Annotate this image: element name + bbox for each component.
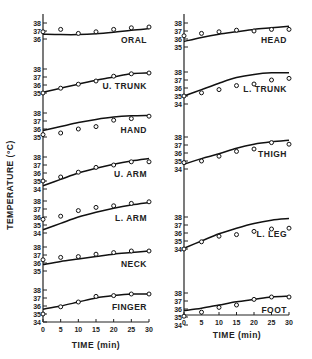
- y-tick-label: 37: [174, 222, 182, 229]
- data-point: [129, 26, 133, 30]
- y-tick-label: 36: [33, 303, 41, 310]
- y-tick-label: 35: [33, 268, 41, 275]
- y-tick-label: 37: [174, 28, 182, 35]
- panel-label: L. LEG: [257, 229, 287, 239]
- data-point: [59, 131, 63, 135]
- data-point: [147, 200, 151, 204]
- data-point: [235, 149, 239, 153]
- panel-u-trunk: 35363738U. TRUNK: [33, 66, 151, 97]
- data-point: [59, 214, 63, 218]
- data-point: [287, 295, 291, 299]
- y-tick-label: 34: [33, 230, 41, 237]
- data-point: [217, 305, 221, 309]
- y-tick-label: 35: [33, 311, 41, 318]
- x-tick-label: 20: [110, 326, 118, 333]
- y-tick-label: 38: [174, 69, 182, 76]
- data-point: [129, 249, 133, 253]
- panel-label: HEAD: [261, 35, 287, 45]
- data-point: [217, 88, 221, 92]
- x-tick-label: 20: [250, 319, 258, 326]
- data-point: [147, 114, 151, 118]
- y-axis-label: TEMPERATURE (°C): [5, 140, 15, 230]
- data-point: [147, 249, 151, 253]
- data-point: [147, 292, 151, 296]
- data-point: [76, 209, 80, 213]
- y-tick-label: 38: [33, 20, 41, 27]
- panel-u-arm: 3435363738U. ARM: [33, 154, 151, 193]
- data-point: [235, 303, 239, 307]
- data-point: [129, 201, 133, 205]
- y-tick-label: 36: [174, 85, 182, 92]
- x-tick-label: 25: [127, 326, 135, 333]
- y-tick-label: 36: [33, 82, 41, 89]
- data-point: [287, 142, 291, 146]
- y-tick-label: 35: [174, 93, 182, 100]
- data-point: [200, 310, 204, 314]
- y-tick-label: 35: [174, 158, 182, 165]
- y-tick-label: 35: [33, 90, 41, 97]
- data-point: [217, 154, 221, 158]
- y-tick-label: 38: [33, 66, 41, 73]
- data-point: [41, 258, 45, 262]
- y-tick-label: 35: [33, 134, 41, 141]
- data-point: [252, 229, 256, 233]
- data-point: [287, 27, 291, 31]
- panel-thigh: 3435363738THIGH: [174, 134, 291, 173]
- y-tick-label: 37: [174, 298, 182, 305]
- data-point: [217, 30, 221, 34]
- y-tick-label: 34: [174, 101, 182, 108]
- data-point: [59, 175, 63, 179]
- data-point: [252, 29, 256, 33]
- y-tick-label: 37: [33, 162, 41, 169]
- data-point: [182, 161, 186, 165]
- y-tick-label: 34: [174, 246, 182, 253]
- y-tick-label: 37: [174, 77, 182, 84]
- panel-oral: 363738ORAL: [33, 20, 151, 46]
- panel-l-arm: 3435363738L. ARM: [33, 198, 151, 237]
- data-point: [270, 295, 274, 299]
- figure: 051015202530051015202530363738ORAL353637…: [0, 0, 312, 359]
- x-tick-label: 0: [41, 326, 45, 333]
- data-point: [235, 84, 239, 88]
- y-tick-label: 36: [174, 150, 182, 157]
- y-tick-label: 36: [174, 230, 182, 237]
- data-point: [182, 247, 186, 251]
- data-point: [129, 292, 133, 296]
- data-point: [94, 165, 98, 169]
- data-point: [41, 217, 45, 221]
- y-tick-label: 34: [33, 319, 41, 326]
- data-point: [94, 252, 98, 256]
- data-point: [147, 25, 151, 29]
- data-point: [59, 86, 63, 90]
- x-tick-label: 15: [92, 326, 100, 333]
- data-point: [147, 160, 151, 164]
- y-tick-label: 37: [33, 252, 41, 259]
- data-point: [287, 76, 291, 80]
- data-point: [200, 91, 204, 95]
- data-point: [129, 72, 133, 76]
- panel-label: U. ARM: [114, 169, 147, 179]
- y-tick-label: 37: [174, 142, 182, 149]
- data-point: [94, 205, 98, 209]
- data-point: [112, 27, 116, 31]
- panel-label: U. TRUNK: [102, 81, 147, 91]
- y-tick-label: 35: [174, 314, 182, 321]
- y-tick-label: 36: [33, 260, 41, 267]
- panel-l-leg: 3435363738L. LEG: [174, 214, 291, 253]
- data-point: [182, 94, 186, 98]
- x-tick-label: 10: [74, 326, 82, 333]
- data-point: [112, 118, 116, 122]
- data-point: [76, 255, 80, 259]
- panel-neck: 35363738NECK: [33, 244, 151, 275]
- panel-label: FOOT: [261, 305, 287, 315]
- x-tick-label: 10: [215, 319, 223, 326]
- data-point: [129, 117, 133, 121]
- data-point: [59, 255, 63, 259]
- y-tick-label: 38: [33, 244, 41, 251]
- data-point: [252, 297, 256, 301]
- y-tick-label: 36: [174, 306, 182, 313]
- y-tick-label: 34: [174, 322, 182, 329]
- y-tick-label: 38: [174, 214, 182, 221]
- data-point: [270, 78, 274, 82]
- x-tick-label: 30: [145, 326, 153, 333]
